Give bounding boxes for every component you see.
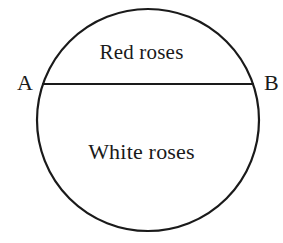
region-label-red-roses: Red roses [0,42,283,63]
point-label-b: B [264,72,279,94]
point-label-a: A [17,72,33,94]
diagram-canvas [0,0,283,243]
region-label-white-roses: White roses [0,141,283,163]
circle-diagram: Red roses White roses A B [0,0,283,243]
